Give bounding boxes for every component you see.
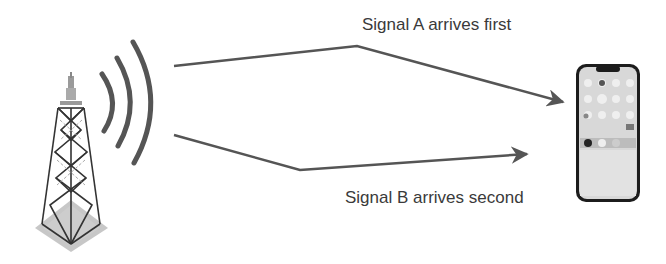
cell-tower-icon	[35, 72, 108, 252]
radio-waves-icon	[102, 42, 151, 163]
signal-a-label: Signal A arrives first	[362, 15, 511, 35]
signal-b-path	[174, 135, 527, 170]
diagram-canvas	[0, 0, 666, 264]
signal-b-label: Signal B arrives second	[345, 188, 524, 208]
signal-a-path	[174, 46, 563, 102]
smartphone-icon	[576, 64, 640, 202]
